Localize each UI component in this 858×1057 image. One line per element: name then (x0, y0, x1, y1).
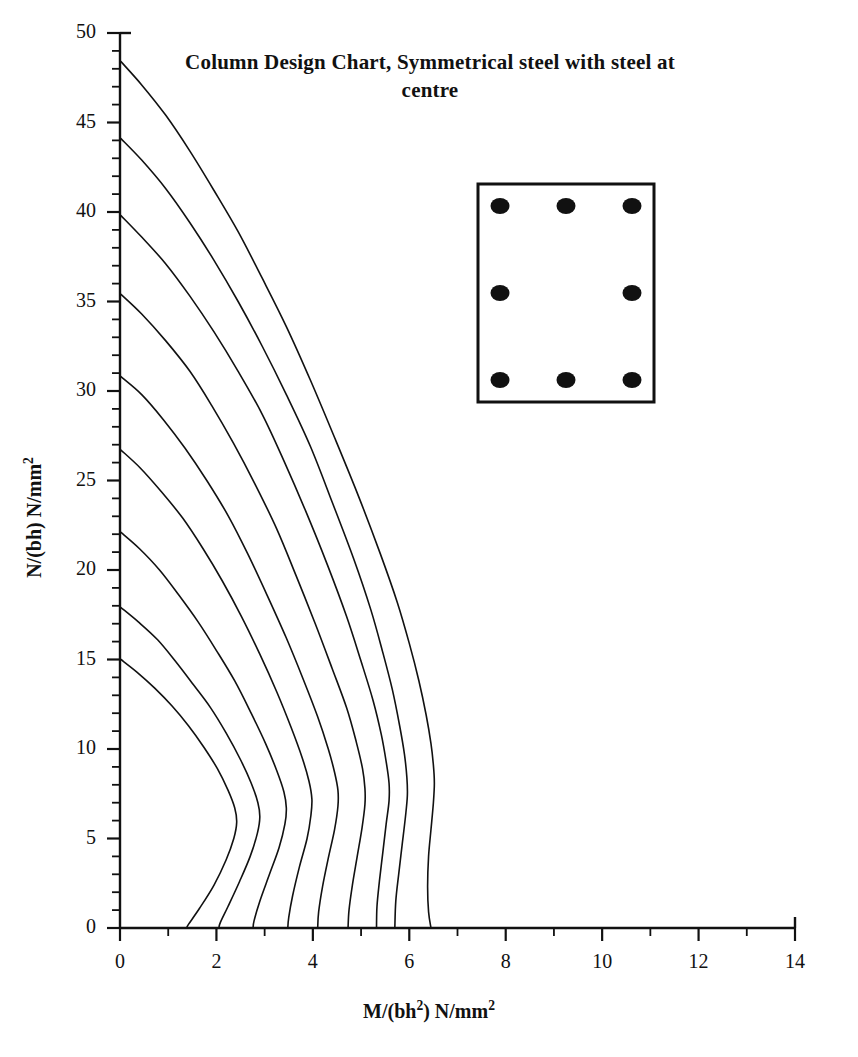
y-tick-label: 50 (36, 20, 96, 43)
design-curve (121, 294, 365, 928)
rebar-top-right (623, 198, 642, 214)
rebar-bottom-centre (557, 372, 576, 388)
rebar-top-centre (557, 198, 576, 214)
x-tick-label: 8 (476, 950, 536, 973)
y-tick-label: 30 (36, 378, 96, 401)
x-tick-label: 12 (669, 950, 729, 973)
y-tick-label: 5 (36, 826, 96, 849)
y-tick-label: 25 (36, 468, 96, 491)
x-tick-label: 4 (283, 950, 343, 973)
y-tick-label: 0 (36, 915, 96, 938)
design-curve (121, 450, 312, 928)
design-curve (121, 532, 286, 928)
rebar-top-left (491, 198, 510, 214)
rebar-bottom-left (491, 372, 510, 388)
column-cross-section (478, 184, 654, 402)
design-curve (121, 608, 260, 928)
y-tick-label: 20 (36, 557, 96, 580)
x-tick-label: 2 (186, 950, 246, 973)
y-tick-label: 35 (36, 289, 96, 312)
x-tick-label: 14 (765, 950, 825, 973)
rebar-mid-left (491, 285, 510, 301)
rebar-mid-right (623, 285, 642, 301)
x-tick-label: 0 (90, 950, 150, 973)
y-tick-label: 40 (36, 199, 96, 222)
column-design-chart: Column Design Chart, Symmetrical steel w… (0, 0, 858, 1057)
plot-area (0, 0, 858, 1057)
x-tick-label: 6 (379, 950, 439, 973)
interaction-curves (121, 62, 434, 928)
rebar-bottom-right (623, 372, 642, 388)
y-tick-label: 15 (36, 647, 96, 670)
x-tick-label: 10 (572, 950, 632, 973)
y-tick-label: 45 (36, 110, 96, 133)
y-tick-label: 10 (36, 736, 96, 759)
design-curve (121, 660, 237, 929)
